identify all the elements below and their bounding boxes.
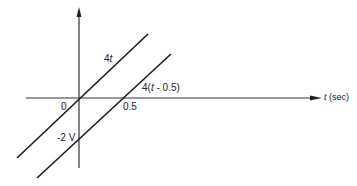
y-intercept-label: -2 V	[57, 133, 75, 143]
label-4t-var: t	[110, 53, 113, 64]
diagram-canvas	[0, 0, 357, 186]
x-intercept-label: 0.5	[123, 102, 137, 112]
label-4t-minus-half: 4(t - 0.5)	[142, 83, 180, 93]
line-4t	[17, 34, 148, 158]
line-4t-minus-half	[37, 54, 171, 178]
horizontal-axis-arrow-icon	[310, 96, 322, 101]
horizontal-axis-label: t (sec)	[324, 93, 349, 102]
vertical-axis-arrow-icon	[77, 7, 82, 17]
label-shift-prefix: 4(	[142, 82, 151, 93]
label-shift-suffix: - 0.5)	[154, 82, 180, 93]
label-4t: 4t	[104, 54, 112, 64]
origin-label: 0	[61, 102, 67, 112]
axis-unit: (sec)	[327, 92, 350, 102]
